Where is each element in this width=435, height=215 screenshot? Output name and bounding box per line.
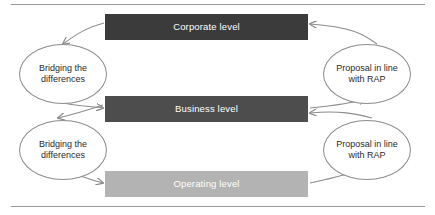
ellipse-proposal-rap-lower: Proposal in line with RAP [323,120,411,180]
top-divider-rule [11,4,425,5]
ellipse-line-2: differences [41,150,85,162]
ellipse-line-2: with RAP [348,74,385,86]
arrow-right-bottom-to-business [310,112,372,118]
ellipse-line-2: differences [41,74,85,86]
ellipse-line-1: Bridging the [39,63,87,75]
ellipse-proposal-rap-upper: Proposal in line with RAP [323,44,411,104]
ellipse-line-2: with RAP [348,150,385,162]
ellipse-bridging-differences-lower: Bridging the differences [19,120,107,180]
bottom-divider-rule [11,206,425,207]
level-bar-operating: Operating level [105,171,308,197]
ellipse-line-1: Bridging the [39,139,87,151]
arrow-business-to-left-bottom [58,105,103,118]
level-bar-corporate-label: Corporate level [173,22,240,32]
strategy-levels-diagram: Corporate level Business level Operating… [0,0,435,215]
level-bar-operating-label: Operating level [173,179,239,189]
level-bar-business: Business level [105,96,308,122]
arrow-right-top-to-corporate [310,24,377,44]
ellipse-line-1: Proposal in line [336,63,398,75]
level-bar-corporate: Corporate level [105,14,308,40]
level-bar-business-label: Business level [175,104,238,114]
arrow-corporate-to-left-top [63,23,104,44]
ellipse-bridging-differences-upper: Bridging the differences [19,44,107,104]
ellipse-line-1: Proposal in line [336,139,398,151]
